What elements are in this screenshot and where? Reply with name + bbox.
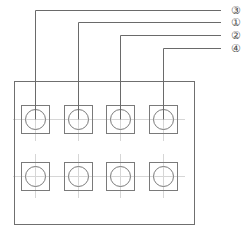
- callout-leader-lines-group: [36, 11, 222, 120]
- module-centerlines-group: [13, 97, 185, 198]
- callout-1-label: ①: [228, 17, 244, 28]
- outer-housing-panel: [15, 82, 195, 225]
- callout-1-leader-line: [79, 23, 222, 120]
- diagram-vector-layer: [0, 0, 249, 232]
- callout-2-label: ②: [228, 30, 244, 41]
- callout-4-label: ④: [228, 43, 244, 54]
- module-array-group: [22, 106, 178, 191]
- outer-housing-group: [15, 82, 195, 225]
- callout-3-label: ③: [228, 5, 244, 16]
- callout-4-leader-line: [164, 49, 222, 120]
- diagram-canvas: ③①②④: [0, 0, 249, 232]
- callout-3-leader-line: [36, 11, 222, 120]
